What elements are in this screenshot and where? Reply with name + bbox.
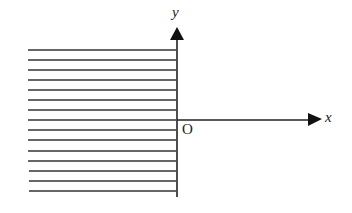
y-axis-label: y (172, 4, 179, 21)
x-axis-arrow-icon (308, 113, 322, 126)
x-axis-label: x (325, 109, 332, 126)
y-axis-arrow-icon (170, 27, 184, 40)
coordinate-diagram (0, 0, 352, 213)
origin-label: O (182, 121, 193, 138)
hatched-region (28, 50, 176, 191)
